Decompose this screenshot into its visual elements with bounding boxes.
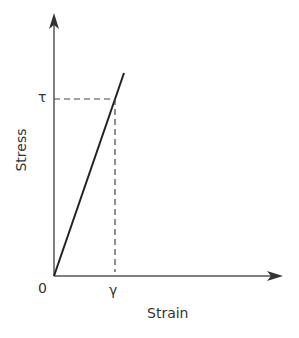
strain-marker-label: γ — [109, 282, 117, 298]
stress-marker-label: τ — [38, 89, 46, 105]
x-axis-label: Strain — [147, 305, 188, 321]
stress-strain-line — [54, 73, 124, 276]
y-axis-label: Stress — [13, 128, 29, 172]
origin-label: 0 — [38, 280, 47, 296]
